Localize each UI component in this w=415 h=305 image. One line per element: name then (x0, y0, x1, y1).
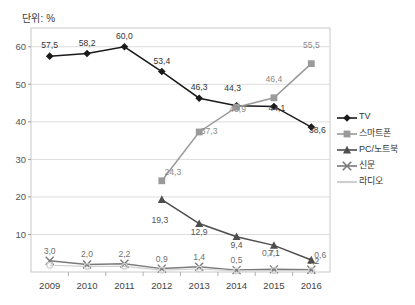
legend-label: 신문 (359, 158, 375, 171)
x-axis-category-label: 2015 (263, 280, 284, 291)
y-axis-tick-label: 30 (15, 154, 26, 165)
data-label-신문: 2,0 (81, 249, 93, 259)
x-axis-category-label: 2013 (189, 280, 210, 291)
y-axis-tick-label: 10 (15, 229, 26, 240)
legend-item-라디오[interactable]: 라디오 (336, 174, 398, 186)
data-point-marker-스마트폰 (271, 94, 278, 101)
legend-item-TV[interactable]: TV (336, 110, 398, 122)
data-label-신문: 0,7 (262, 248, 274, 258)
data-label-TV: 53,4 (153, 56, 170, 66)
data-label-신문: 0,5 (231, 255, 243, 265)
data-label-TV: 38,6 (309, 125, 326, 135)
y-axis-tick-label: 20 (15, 191, 26, 202)
data-label-신문: 2,2 (118, 249, 130, 259)
triangle-marker-icon (336, 142, 358, 154)
plot-frame (31, 28, 330, 272)
data-label-신문: 0,9 (156, 254, 168, 264)
legend-label: PC/노트북 (359, 142, 398, 155)
data-label-PC/노트북: 19,3 (151, 215, 168, 225)
legend-item-스마트폰[interactable]: 스마트폰 (336, 126, 398, 138)
legend-label: 스마트폰 (359, 126, 391, 139)
legend-item-PC/노트북[interactable]: PC/노트북 (336, 142, 398, 154)
data-label-신문: 1,4 (193, 252, 205, 262)
x-axis-category-label: 2014 (226, 280, 247, 291)
diamond-marker-icon (336, 110, 358, 122)
data-label-PC/노트북: 12,9 (191, 227, 208, 237)
media-usage-line-chart: 단위: % 1020304050602009201020112012201320… (0, 0, 415, 305)
data-label-PC/노트북: 9,4 (231, 240, 243, 250)
x-axis-category-label: 2016 (301, 280, 322, 291)
data-label-신문: 3,0 (44, 246, 56, 256)
y-axis-tick-label: 50 (15, 79, 26, 90)
line-marker-icon (336, 174, 358, 186)
square-marker-icon (336, 126, 358, 138)
data-label-신문: 0,6 (314, 250, 326, 260)
data-label-스마트폰: 24,3 (164, 167, 181, 177)
data-label-스마트폰: 55,5 (303, 40, 320, 50)
data-label-스마트폰: 46,4 (266, 74, 283, 84)
chart-legend: TV스마트폰PC/노트북신문라디오 (336, 110, 398, 186)
data-point-marker-스마트폰 (308, 60, 315, 67)
data-label-TV: 44,3 (224, 83, 241, 93)
y-axis-tick-label: 60 (15, 41, 26, 52)
data-label-스마트폰: 43,9 (229, 104, 246, 114)
y-axis-tick-label: 40 (15, 116, 26, 127)
data-label-TV: 60,0 (116, 31, 133, 41)
cross-marker-icon (336, 158, 358, 170)
legend-label: TV (359, 111, 371, 121)
data-label-TV: 44,1 (269, 103, 286, 113)
x-axis-category-label: 2009 (39, 280, 60, 291)
legend-item-신문[interactable]: 신문 (336, 158, 398, 170)
data-label-스마트폰: 37,3 (201, 126, 218, 136)
x-axis-category-label: 2012 (151, 280, 172, 291)
data-label-TV: 46,3 (191, 82, 208, 92)
data-label-TV: 58,2 (79, 38, 96, 48)
x-axis-category-label: 2011 (114, 280, 134, 291)
legend-label: 라디오 (359, 174, 383, 187)
x-axis-category-label: 2010 (76, 280, 97, 291)
data-label-TV: 57,5 (41, 40, 58, 50)
data-point-marker-스마트폰 (158, 177, 165, 184)
